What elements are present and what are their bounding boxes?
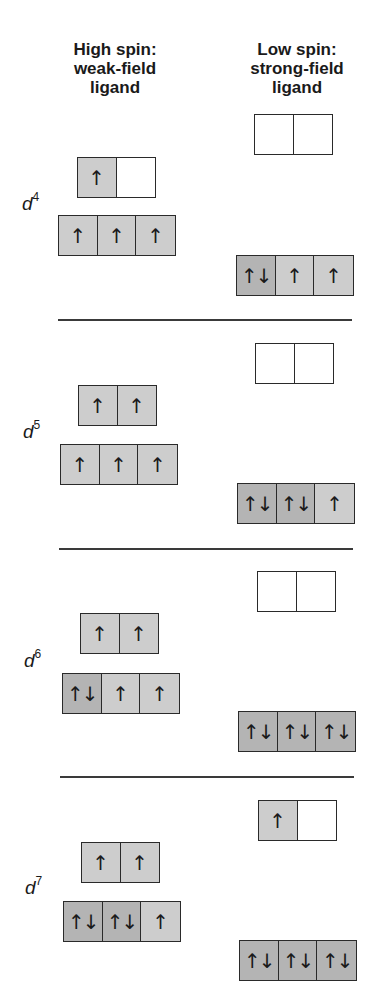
high-spin-eg-orbitals: ↑	[77, 157, 156, 198]
orbital-box-single: ↑	[82, 843, 121, 882]
orbital-box-single: ↑	[98, 216, 137, 255]
section-divider	[59, 548, 353, 550]
orbital-box-single: ↑	[314, 256, 353, 295]
orbital-box-paired: ↑↓	[279, 941, 318, 980]
electron-config-label: d4	[22, 192, 39, 215]
high-spin-header-line-1: High spin:	[40, 40, 190, 59]
high-spin-t2g-orbitals: ↑↑↑	[58, 215, 176, 256]
electron-config-label: d6	[24, 649, 41, 672]
orbital-box-single: ↑	[141, 902, 180, 941]
orbital-box-single: ↑	[259, 801, 298, 840]
high-spin-eg-orbitals: ↑↑	[81, 842, 160, 883]
high-spin-t2g-orbitals: ↑↓↑↑	[62, 673, 180, 714]
orbital-box-paired: ↑↓	[239, 712, 278, 751]
section-divider	[58, 319, 352, 321]
orbital-box-single: ↑	[81, 614, 120, 653]
orbital-box-single: ↑	[102, 674, 141, 713]
low-spin-t2g-orbitals: ↑↓↑↓↑↓	[238, 711, 356, 752]
high-spin-header-line-3: ligand	[40, 78, 190, 97]
low-spin-eg-orbitals	[255, 343, 334, 384]
orbital-box-empty	[295, 344, 334, 383]
orbital-box-paired: ↑↓	[238, 484, 277, 523]
low-spin-t2g-orbitals: ↑↓↑↑	[236, 255, 354, 296]
low-spin-eg-orbitals	[254, 114, 333, 155]
orbital-box-empty	[294, 115, 333, 154]
orbital-box-paired: ↑↓	[64, 902, 103, 941]
low-spin-header-line-3: ligand	[222, 78, 372, 97]
low-spin-t2g-orbitals: ↑↓↑↓↑↓	[239, 940, 357, 981]
orbital-box-single: ↑	[136, 216, 175, 255]
orbital-box-empty	[255, 115, 294, 154]
low-spin-eg-orbitals	[257, 571, 336, 612]
orbital-box-paired: ↑↓	[277, 484, 316, 523]
orbital-box-empty	[256, 344, 295, 383]
low-spin-eg-orbitals: ↑	[258, 800, 337, 841]
orbital-box-empty	[117, 158, 156, 197]
orbital-box-empty	[297, 572, 336, 611]
orbital-box-single: ↑	[140, 674, 179, 713]
orbital-box-paired: ↑↓	[237, 256, 276, 295]
orbital-box-single: ↑	[79, 386, 118, 425]
high-spin-t2g-orbitals: ↑↑↑	[60, 444, 178, 485]
high-spin-eg-orbitals: ↑↑	[80, 613, 159, 654]
orbital-box-single: ↑	[100, 445, 139, 484]
low-spin-header-line-1: Low spin:	[222, 40, 372, 59]
orbital-box-single: ↑	[120, 614, 159, 653]
orbital-box-single: ↑	[61, 445, 100, 484]
low-spin-t2g-orbitals: ↑↓↑↓↑	[237, 483, 355, 524]
orbital-box-single: ↑	[121, 843, 160, 882]
orbital-box-paired: ↑↓	[240, 941, 279, 980]
orbital-box-paired: ↑↓	[103, 902, 142, 941]
low-spin-header-line-2: strong-field	[222, 59, 372, 78]
orbital-box-single: ↑	[138, 445, 177, 484]
orbital-box-paired: ↑↓	[63, 674, 102, 713]
electron-config-label: d5	[23, 420, 40, 443]
section-divider	[60, 776, 354, 778]
orbital-box-single: ↑	[315, 484, 354, 523]
high-spin-header: High spin: weak-field ligand	[40, 40, 190, 97]
orbital-box-paired: ↑↓	[278, 712, 317, 751]
electron-config-label: d7	[25, 876, 42, 899]
orbital-box-paired: ↑↓	[316, 712, 355, 751]
high-spin-t2g-orbitals: ↑↓↑↓↑	[63, 901, 181, 942]
orbital-box-empty	[258, 572, 297, 611]
orbital-box-single: ↑	[59, 216, 98, 255]
low-spin-header: Low spin: strong-field ligand	[222, 40, 372, 97]
high-spin-header-line-2: weak-field	[40, 59, 190, 78]
orbital-box-paired: ↑↓	[317, 941, 356, 980]
orbital-box-single: ↑	[276, 256, 315, 295]
orbital-box-single: ↑	[118, 386, 157, 425]
orbital-box-empty	[298, 801, 337, 840]
orbital-box-single: ↑	[78, 158, 117, 197]
high-spin-eg-orbitals: ↑↑	[78, 385, 157, 426]
